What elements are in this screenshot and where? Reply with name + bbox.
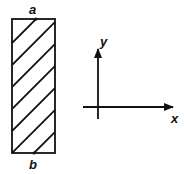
label-a: a (29, 2, 36, 17)
point-a-dot (35, 18, 38, 21)
coordinate-axes (83, 49, 173, 119)
y-axis-label: y (99, 34, 108, 49)
point-b-dot (33, 152, 36, 155)
label-b: b (29, 157, 37, 172)
hatch-lines (12, 19, 58, 153)
diagram-canvas: a b y x (0, 0, 184, 174)
hatched-rectangle (12, 18, 58, 155)
x-axis-label: x (170, 111, 179, 126)
rectangle-outline (12, 19, 55, 153)
